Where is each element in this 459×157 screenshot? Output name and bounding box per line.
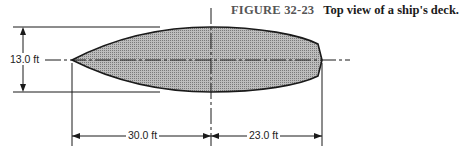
arrow-right-icon bbox=[203, 133, 211, 139]
arrow-left-icon bbox=[72, 133, 80, 139]
arrow-right-icon bbox=[314, 133, 322, 139]
arrow-left-icon bbox=[211, 133, 219, 139]
arrow-up-icon bbox=[20, 27, 26, 35]
stern-length-label: 23.0 ft bbox=[247, 129, 280, 141]
bow-length-label: 30.0 ft bbox=[126, 129, 159, 141]
figure-number: FIGURE 32-23 bbox=[231, 3, 314, 17]
figure-caption: FIGURE 32-23Top view of a ship's deck. bbox=[231, 3, 459, 18]
figure-title: Top view of a ship's deck. bbox=[323, 3, 459, 17]
width-label: 13.0 ft bbox=[8, 53, 41, 65]
arrow-down-icon bbox=[20, 84, 26, 92]
